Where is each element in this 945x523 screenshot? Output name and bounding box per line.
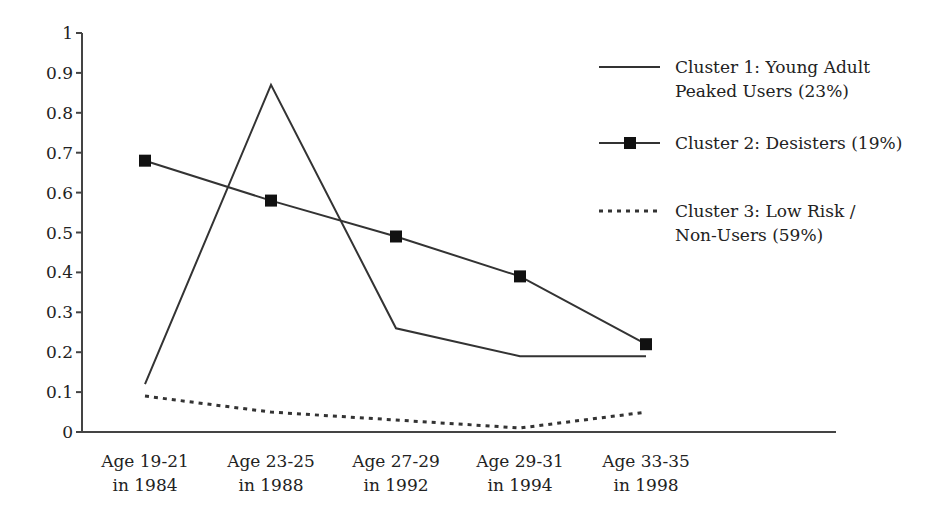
series-line — [145, 396, 646, 428]
square-marker — [139, 155, 151, 167]
legend-label: Cluster 2: Desisters (19%) — [675, 133, 902, 153]
square-marker — [514, 270, 526, 282]
svg-text:in 1994: in 1994 — [487, 475, 552, 495]
square-marker — [390, 230, 402, 242]
svg-text:Age 19-21: Age 19-21 — [100, 451, 189, 471]
svg-text:in 1992: in 1992 — [363, 475, 428, 495]
legend: Cluster 1: Young AdultPeaked Users (23%)… — [599, 57, 902, 245]
x-axis: Age 19-21in 1984Age 23-25in 1988Age 27-2… — [76, 432, 836, 495]
y-tick-label: 0.5 — [46, 223, 73, 243]
svg-text:in 1984: in 1984 — [112, 475, 177, 495]
y-tick-label: 0.4 — [46, 262, 73, 282]
legend-item-cluster-1: Cluster 1: Young AdultPeaked Users (23%) — [599, 57, 870, 101]
legend-square-marker — [624, 137, 636, 149]
y-axis: 00.10.20.30.40.50.60.70.80.91 — [46, 23, 82, 442]
y-tick-label: 0.6 — [46, 183, 73, 203]
y-tick-label: 0.1 — [46, 382, 73, 402]
y-tick-label: 1 — [62, 23, 73, 43]
x-category-label: Age 27-29in 1992 — [351, 451, 440, 495]
series-cluster-3 — [145, 396, 646, 428]
legend-item-cluster-2: Cluster 2: Desisters (19%) — [599, 133, 902, 153]
x-category-label: Age 33-35in 1998 — [601, 451, 690, 495]
y-tick-label: 0.2 — [46, 342, 73, 362]
svg-text:in 1988: in 1988 — [238, 475, 303, 495]
plot-area — [139, 85, 652, 428]
series-line — [145, 161, 646, 345]
svg-text:Age 33-35: Age 33-35 — [601, 451, 690, 471]
square-marker — [640, 338, 652, 350]
legend-label: Cluster 3: Low Risk / — [675, 201, 856, 221]
square-marker — [265, 195, 277, 207]
y-tick-label: 0.8 — [46, 103, 73, 123]
svg-text:in 1998: in 1998 — [613, 475, 678, 495]
x-category-label: Age 19-21in 1984 — [100, 451, 189, 495]
y-tick-label: 0.9 — [46, 63, 73, 83]
svg-text:Age 29-31: Age 29-31 — [475, 451, 564, 471]
svg-text:Age 23-25: Age 23-25 — [226, 451, 315, 471]
legend-label: Peaked Users (23%) — [675, 81, 849, 101]
x-category-label: Age 29-31in 1994 — [475, 451, 564, 495]
legend-label: Cluster 1: Young Adult — [675, 57, 870, 77]
legend-item-cluster-3: Cluster 3: Low Risk /Non-Users (59%) — [599, 201, 856, 245]
svg-text:Age 27-29: Age 27-29 — [351, 451, 440, 471]
y-tick-label: 0 — [62, 422, 73, 442]
series-cluster-2 — [139, 155, 652, 351]
x-category-label: Age 23-25in 1988 — [226, 451, 315, 495]
y-tick-label: 0.7 — [46, 143, 73, 163]
line-chart: 00.10.20.30.40.50.60.70.80.91 Age 19-21i… — [0, 0, 945, 523]
y-tick-label: 0.3 — [46, 302, 73, 322]
legend-label: Non-Users (59%) — [675, 225, 823, 245]
